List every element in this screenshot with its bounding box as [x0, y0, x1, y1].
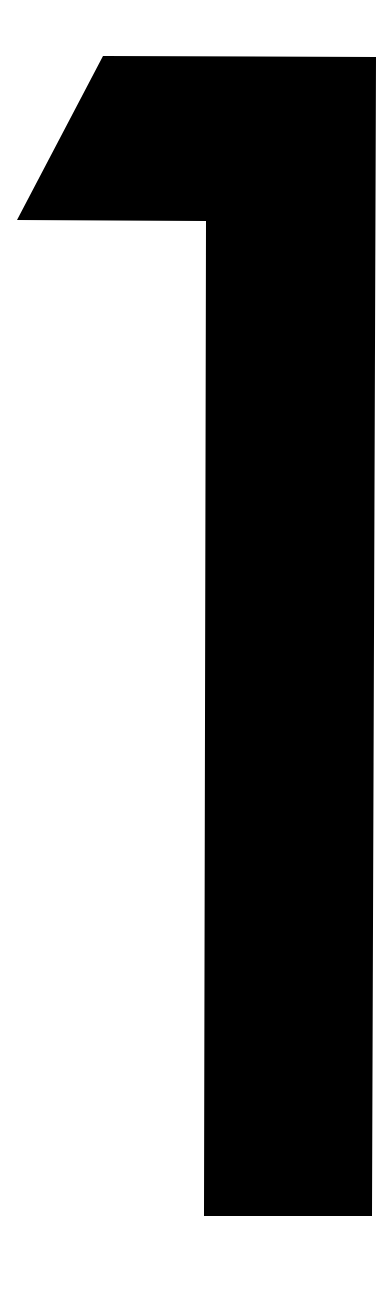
page-canvas: 1: [0, 0, 384, 1291]
numeral-one-glyph: [0, 0, 384, 1291]
